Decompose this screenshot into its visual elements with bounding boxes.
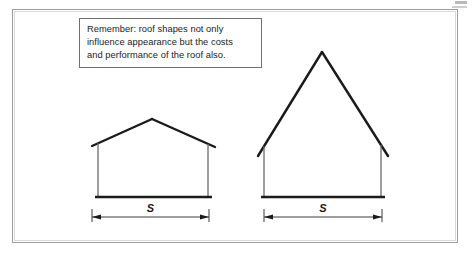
- steep-pitch-gable-house: [258, 52, 388, 197]
- arrowhead-right: [200, 214, 209, 219]
- figure-canvas: Remember: roof shapes not only influence…: [0, 0, 472, 259]
- span-label-right: S: [315, 203, 330, 214]
- roof-slope-left: [258, 52, 322, 156]
- house-diagrams: [0, 0, 472, 259]
- arrowhead-left: [264, 214, 273, 219]
- roof-slope-right: [322, 52, 388, 156]
- arrowhead-right: [373, 214, 382, 219]
- roof-slope-right: [152, 119, 215, 147]
- span-label-left: S: [143, 203, 158, 214]
- arrowhead-left: [92, 214, 101, 219]
- low-pitch-gable-house: [92, 119, 215, 197]
- roof-slope-left: [92, 119, 152, 146]
